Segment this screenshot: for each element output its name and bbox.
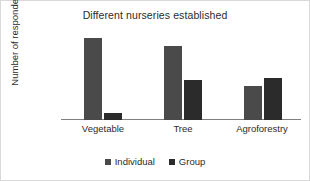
- plot-area: 60 40 20 0: [61, 31, 301, 120]
- x-label-agroforestry: Agroforestry: [219, 123, 305, 134]
- bar-agroforestry-individual: [244, 86, 262, 120]
- bar-agroforestry-group: [264, 78, 282, 120]
- x-axis-category-labels: Vegetable Tree Agroforestry: [61, 123, 301, 139]
- chart-legend: Individual Group: [1, 156, 309, 167]
- chart-title: Different nurseries established: [1, 9, 309, 21]
- x-label-tree: Tree: [143, 123, 223, 134]
- legend-item-group: Group: [169, 156, 205, 167]
- legend-swatch-icon-group: [169, 159, 175, 165]
- x-label-vegetable: Vegetable: [63, 123, 143, 134]
- bar-vegetable-group: [104, 113, 122, 120]
- y-axis-title: Number of respondents: [9, 0, 23, 96]
- bar-chart-figure: Different nurseries established Number o…: [0, 0, 310, 181]
- legend-item-individual: Individual: [105, 156, 155, 167]
- bar-tree-individual: [164, 46, 182, 120]
- legend-label-individual: Individual: [115, 156, 155, 167]
- legend-label-group: Group: [179, 156, 205, 167]
- legend-swatch-icon-individual: [105, 159, 111, 165]
- bar-tree-group: [184, 80, 202, 120]
- bar-vegetable-individual: [84, 38, 102, 120]
